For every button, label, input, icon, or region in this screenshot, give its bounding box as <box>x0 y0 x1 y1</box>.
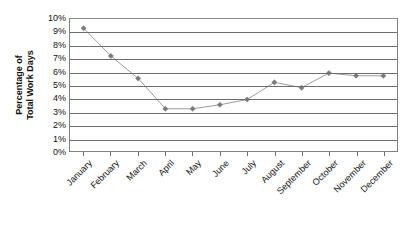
gridline <box>70 73 397 74</box>
x-axis-tick <box>110 152 111 156</box>
y-axis-tick-label: 7% <box>36 54 66 63</box>
x-axis-tick-label-text: June <box>210 158 231 179</box>
data-series-line <box>70 19 397 151</box>
y-axis-title: Percentage of Total Work Days <box>12 18 38 152</box>
gridline <box>70 99 397 100</box>
y-axis-tick-label: 8% <box>36 41 66 50</box>
line-chart: Percentage of Total Work Days 10%9%8%7%6… <box>0 0 417 236</box>
gridline <box>70 32 397 33</box>
plot-area <box>69 18 398 152</box>
y-axis-tick-label: 5% <box>36 81 66 90</box>
x-axis-tick-label-text: May <box>184 158 203 177</box>
gridline <box>70 140 397 141</box>
x-axis-tick <box>192 152 193 156</box>
y-axis-tick-labels: 10%9%8%7%6%5%4%3%2%1%0% <box>36 12 66 158</box>
x-axis-tick <box>302 152 303 156</box>
y-axis-title-line-1: Percentage of <box>14 55 25 115</box>
x-axis-tick <box>329 152 330 156</box>
x-axis-tick <box>357 152 358 156</box>
x-axis-tick-label: March <box>124 158 149 183</box>
x-axis-tick <box>165 152 166 156</box>
gridline <box>70 113 397 114</box>
y-axis-tick-label: 3% <box>36 108 66 117</box>
x-axis-tick-label: June <box>210 158 231 179</box>
x-axis-tick <box>83 152 84 156</box>
gridline <box>70 126 397 127</box>
gridline <box>70 46 397 47</box>
x-axis-tick-label-text: April <box>156 158 176 178</box>
data-point-marker <box>272 80 277 85</box>
x-axis-tick <box>138 152 139 156</box>
x-axis-tick-label: February <box>89 158 122 191</box>
x-axis-tick-label: July <box>240 158 258 176</box>
x-axis-tick-label-text: March <box>124 158 149 183</box>
x-axis-tick-label: April <box>156 158 176 178</box>
y-axis-tick-label: 0% <box>36 148 66 157</box>
series-polyline <box>84 28 384 109</box>
x-axis-tick-label: May <box>184 158 203 177</box>
y-axis-tick-label: 4% <box>36 94 66 103</box>
data-point-marker <box>190 106 195 111</box>
x-axis-tick-label-text: February <box>89 158 122 191</box>
y-axis-tick-label: 6% <box>36 68 66 77</box>
x-axis-tick <box>247 152 248 156</box>
x-axis-tick <box>384 152 385 156</box>
y-axis-tick-label: 1% <box>36 135 66 144</box>
y-axis-tick-label: 9% <box>36 27 66 36</box>
x-axis-tick <box>275 152 276 156</box>
y-axis-tick-label: 2% <box>36 121 66 130</box>
gridline <box>70 86 397 87</box>
x-axis-tick-label-text: July <box>240 158 258 176</box>
gridline <box>70 59 397 60</box>
x-axis-tick <box>220 152 221 156</box>
y-axis-title-line-2: Total Work Days <box>25 50 36 120</box>
y-axis-tick-label: 10% <box>36 14 66 23</box>
data-point-marker <box>217 102 222 107</box>
